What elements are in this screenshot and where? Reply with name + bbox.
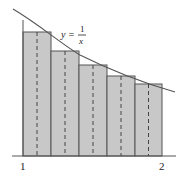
x-tick-1: 1 (20, 160, 26, 172)
eq-numerator: 1 (80, 24, 85, 34)
riemann-sum-chart: 1 2 y = 1 x (0, 0, 184, 181)
eq-lhs: y = (60, 29, 75, 40)
function-label: y = 1 x (60, 24, 86, 46)
eq-denominator: x (78, 36, 83, 46)
bar-4 (107, 76, 135, 156)
x-tick-2: 2 (159, 160, 165, 172)
